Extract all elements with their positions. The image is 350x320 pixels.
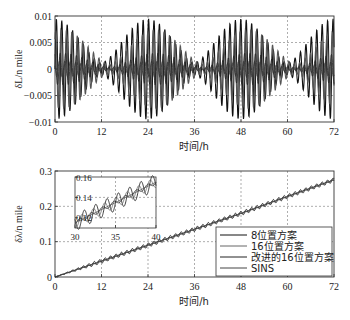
x-tick-label: 30 <box>71 232 81 242</box>
x-tick-label: 0 <box>53 281 58 292</box>
x-tick-label: 72 <box>329 126 339 137</box>
legend-label: SINS <box>251 263 274 274</box>
x-tick-label: 0 <box>53 126 58 137</box>
x-tick-label: 48 <box>236 281 246 292</box>
top-y-tick-labels: −0.01−0.00500.0050.01 <box>24 11 52 128</box>
x-tick-label: 60 <box>283 281 293 292</box>
legend-label: 改进的16位置方案 <box>251 251 334 263</box>
y-tick-label: 0.14 <box>76 193 92 203</box>
inset-y-tick-labels: 0.120.140.16 <box>76 173 92 224</box>
y-tick-label: 0.3 <box>40 166 53 177</box>
top-y-axis-title: δL/n mile <box>13 49 24 88</box>
x-tick-label: 24 <box>143 126 153 137</box>
x-tick-label: 12 <box>97 126 107 137</box>
bottom-y-axis-title: δλ/n mile <box>13 205 24 243</box>
y-tick-label: 0 <box>47 272 52 283</box>
figure: 0122436486072 −0.01−0.00500.0050.01 时间/h… <box>0 0 350 320</box>
y-tick-label: 0.12 <box>76 213 92 223</box>
y-tick-label: 0.1 <box>40 236 53 247</box>
top-latitude-error-plot: 0122436486072 −0.01−0.00500.0050.01 时间/h… <box>13 11 339 153</box>
legend: 8位置方案 16位置方案 改进的16位置方案 SINS <box>216 227 334 276</box>
bottom-x-axis-title: 时间/h <box>179 295 209 307</box>
top-x-tick-labels: 0122436486072 <box>53 126 340 137</box>
x-tick-label: 35 <box>111 232 121 242</box>
top-x-axis-title: 时间/h <box>179 140 209 152</box>
inset-x-tick-labels: 303540 <box>71 232 162 242</box>
y-tick-label: −0.005 <box>24 90 52 101</box>
bottom-x-tick-labels: 0122436486072 <box>53 281 340 292</box>
bottom-longitude-error-plot: 0122436486072 00.10.20.3 时间/h δλ/n mile … <box>13 166 339 308</box>
x-tick-label: 36 <box>190 126 200 137</box>
zoom-inset-plot: 303540 0.120.140.16 <box>71 173 162 243</box>
x-tick-label: 24 <box>143 281 153 292</box>
y-tick-label: 0.2 <box>40 201 53 212</box>
legend-label: 8位置方案 <box>251 229 297 241</box>
x-tick-label: 60 <box>283 126 293 137</box>
y-tick-label: 0.16 <box>76 173 92 183</box>
x-tick-label: 12 <box>97 281 107 292</box>
y-tick-label: −0.01 <box>29 117 52 128</box>
x-tick-label: 72 <box>329 281 339 292</box>
x-tick-label: 48 <box>236 126 246 137</box>
y-tick-label: 0 <box>47 64 52 75</box>
x-tick-label: 36 <box>190 281 200 292</box>
y-tick-label: 0.01 <box>35 11 53 22</box>
bottom-y-tick-labels: 00.10.20.3 <box>40 166 53 283</box>
legend-label: 16位置方案 <box>251 240 304 252</box>
x-tick-label: 40 <box>152 232 162 242</box>
y-tick-label: 0.005 <box>30 37 53 48</box>
